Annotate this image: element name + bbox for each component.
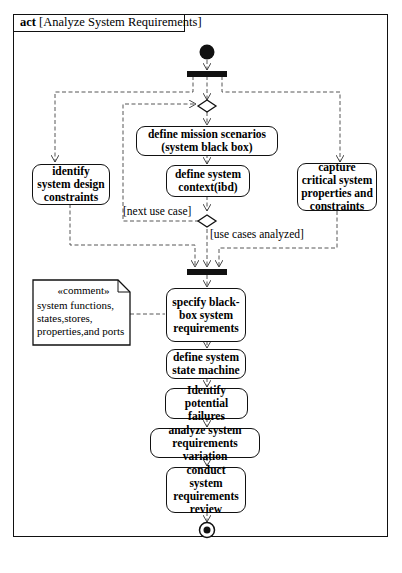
- action-define-system-context[interactable]: define system context(ibd): [166, 165, 250, 197]
- action-define-state-machine[interactable]: define system state machine: [166, 349, 246, 379]
- join-bar: [187, 269, 227, 275]
- comment-body: «comment» system functions, states,store…: [33, 280, 130, 345]
- action-identify-potential-failures[interactable]: Identify potential failures: [165, 388, 248, 419]
- action-specify-blackbox-requirements[interactable]: specify black-box system requirements: [166, 288, 246, 342]
- initial-node: [200, 45, 215, 60]
- merge-node: [198, 100, 216, 112]
- fork-bar: [187, 71, 227, 77]
- action-define-mission-scenarios[interactable]: define mission scenarios (system black b…: [136, 126, 278, 156]
- decision-node: [198, 215, 216, 227]
- action-analyze-requirements-variation[interactable]: analyze system requirements variation: [150, 428, 260, 458]
- guard-next-use-case: [next use case]: [123, 205, 191, 217]
- action-identify-design-constraints[interactable]: identify system design constraints: [32, 164, 110, 205]
- action-capture-critical-properties[interactable]: capture critical system properties and c…: [297, 163, 377, 211]
- comment-text: system functions, states,stores, propert…: [37, 299, 124, 337]
- action-conduct-requirements-review[interactable]: conduct system requirements review: [166, 467, 246, 513]
- comment-stereotype: «comment»: [37, 284, 130, 297]
- guard-use-cases-analyzed: [use cases analyzed]: [210, 228, 304, 240]
